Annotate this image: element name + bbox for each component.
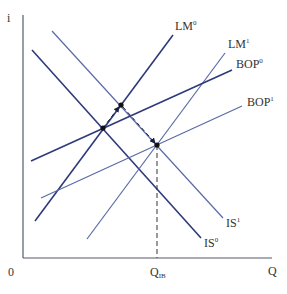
lm0-label: LM0 (175, 19, 197, 33)
bop1-curve (41, 106, 242, 198)
q-ib-main: Q (150, 265, 159, 279)
lm0-sup: 0 (193, 19, 197, 27)
bop1-label: BOP1 (247, 95, 274, 109)
is1-text: IS (226, 216, 237, 230)
is1-curve (52, 31, 223, 218)
bop0-text: BOP (236, 57, 260, 71)
is0-label: IS0 (204, 236, 219, 250)
is0-curve (32, 50, 201, 238)
curves (31, 31, 242, 239)
bop0-curve (31, 70, 232, 161)
equilibrium-point-final (154, 142, 159, 147)
is-lm-bop-diagram: i Q 0 QIB IS0 IS1 LM0 LM1 BOP0 BOP1 (0, 0, 287, 294)
lm1-sup: 1 (246, 37, 250, 45)
equilibrium-point-initial (100, 125, 105, 130)
bop1-sup: 1 (270, 95, 274, 103)
is0-text: IS (204, 236, 215, 250)
is1-label: IS1 (226, 216, 241, 230)
lm1-text: LM (228, 37, 246, 51)
q-ib-label: QIB (150, 265, 166, 280)
equilibrium-point-intermediate (118, 102, 123, 107)
is1-sup: 1 (237, 216, 241, 224)
bop1-text: BOP (247, 95, 271, 109)
lm0-text: LM (175, 19, 193, 33)
bop0-sup: 0 (259, 57, 263, 65)
x-axis-label: Q (268, 264, 277, 278)
bop0-label: BOP0 (236, 57, 263, 71)
is0-sup: 0 (215, 236, 219, 244)
lm1-label: LM1 (228, 37, 250, 51)
origin-label: 0 (8, 265, 14, 279)
q-ib-sub: IB (159, 272, 166, 280)
y-axis-label: i (7, 11, 11, 25)
